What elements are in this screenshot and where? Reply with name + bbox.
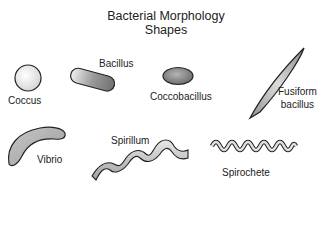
coccus-shape: [15, 65, 41, 91]
coccus-label: Coccus: [8, 95, 41, 107]
fusiform-label-line-2: bacillus: [278, 99, 317, 111]
fusiform-label-line-1: Fusiform: [278, 86, 317, 98]
spirochete-label: Spirochete: [222, 167, 270, 179]
coccobacillus-shape: [163, 68, 193, 85]
spirillum-label: Spirillum: [111, 135, 149, 147]
bacillus-label: Bacillus: [99, 58, 133, 70]
spirochete-shape: [212, 142, 296, 150]
vibrio-label: Vibrio: [37, 154, 62, 166]
fusiform-bacillus-label: Fusiform bacillus: [278, 86, 317, 111]
coccobacillus-label: Coccobacillus: [150, 91, 212, 103]
bacillus-shape: [69, 67, 116, 93]
